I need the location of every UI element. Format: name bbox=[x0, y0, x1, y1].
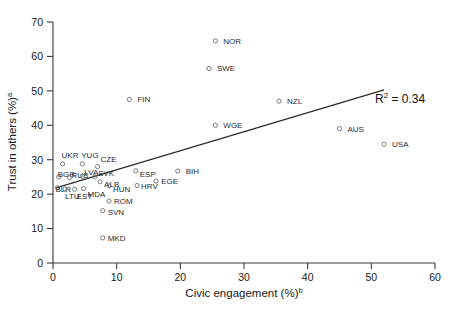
y-tick-label-10: 10 bbox=[31, 222, 43, 234]
point-label-bih: BIH bbox=[186, 167, 200, 176]
x-axis-title-text: Civic engagement (%) bbox=[185, 287, 298, 299]
point-label-aus: AUS bbox=[348, 125, 364, 134]
point-marker-usa bbox=[382, 142, 386, 146]
point-marker-wge bbox=[213, 123, 217, 127]
point-marker-est bbox=[73, 187, 77, 191]
y-tick-label-50: 50 bbox=[31, 85, 43, 97]
point-label-fin: FIN bbox=[137, 95, 150, 104]
point-marker-swe bbox=[207, 66, 211, 70]
point-marker-fin bbox=[127, 97, 131, 101]
point-marker-nor bbox=[213, 39, 217, 43]
data-point-svn: SVN bbox=[101, 208, 125, 217]
r-squared-annotation: R2 = 0.34 bbox=[375, 91, 425, 106]
scatter-chart: 010203040506070 0102030405060 Trust in o… bbox=[0, 0, 455, 309]
x-tick-label-30: 30 bbox=[238, 271, 250, 283]
y-tick-label-70: 70 bbox=[31, 16, 43, 28]
data-point-esp: ESP bbox=[134, 169, 156, 179]
data-point-swe: SWE bbox=[207, 64, 235, 73]
point-label-swe: SWE bbox=[217, 64, 235, 73]
data-point-mkd: MKD bbox=[101, 234, 126, 243]
x-tick-label-10: 10 bbox=[111, 271, 123, 283]
point-marker-aus bbox=[337, 127, 341, 131]
x-tick-label-20: 20 bbox=[174, 271, 186, 283]
point-marker-mda bbox=[81, 187, 85, 191]
svg-text:R2 = 0.34: R2 = 0.34 bbox=[375, 91, 425, 106]
x-tick-label-50: 50 bbox=[365, 271, 377, 283]
y-tick-label-60: 60 bbox=[31, 50, 43, 62]
svg-text:Civic engagement (%)b: Civic engagement (%)b bbox=[185, 286, 302, 299]
point-label-mda: MDA bbox=[88, 190, 106, 199]
point-label-usa: USA bbox=[392, 140, 409, 149]
point-marker-bih bbox=[176, 169, 180, 173]
x-tick-label-0: 0 bbox=[50, 271, 56, 283]
data-point-bih: BIH bbox=[176, 167, 200, 176]
point-label-ukr: UKR bbox=[62, 151, 79, 160]
y-axis-ticks: 010203040506070 bbox=[31, 16, 53, 269]
point-label-yug: YUG bbox=[81, 151, 98, 160]
data-point-wge: WGE bbox=[213, 121, 242, 130]
svg-text:Trust in others (%)a: Trust in others (%)a bbox=[5, 92, 18, 191]
x-axis-ticks: 0102030405060 bbox=[50, 263, 441, 283]
axes bbox=[53, 22, 435, 263]
point-label-esp: ESP bbox=[140, 170, 156, 179]
r-squared-value: = 0.34 bbox=[388, 92, 425, 106]
point-marker-mkd bbox=[101, 236, 105, 240]
y-tick-label-20: 20 bbox=[31, 188, 43, 200]
data-point-fin: FIN bbox=[127, 95, 150, 104]
point-label-svk: SVK bbox=[98, 169, 115, 178]
y-axis-title: Trust in others (%)a bbox=[5, 92, 18, 191]
data-point-nzl: NZL bbox=[277, 97, 303, 106]
y-tick-label-0: 0 bbox=[37, 257, 43, 269]
point-label-svn: SVN bbox=[108, 208, 125, 217]
point-marker-ukr bbox=[60, 162, 64, 166]
x-axis-title: Civic engagement (%)b bbox=[185, 286, 302, 299]
point-marker-yug bbox=[80, 162, 84, 166]
point-label-ege: EGE bbox=[161, 177, 178, 186]
x-tick-label-40: 40 bbox=[302, 271, 314, 283]
point-label-hun: HUN bbox=[113, 185, 131, 194]
point-label-cze: CZE bbox=[101, 155, 117, 164]
point-label-nor: NOR bbox=[223, 37, 241, 46]
y-tick-label-30: 30 bbox=[31, 154, 43, 166]
data-point-ukr: UKR bbox=[60, 151, 78, 166]
point-marker-alb bbox=[98, 180, 102, 184]
data-point-usa: USA bbox=[382, 140, 409, 149]
chart-canvas: 010203040506070 0102030405060 Trust in o… bbox=[0, 0, 455, 309]
point-marker-hrv bbox=[135, 183, 139, 187]
point-marker-esp bbox=[134, 169, 138, 173]
point-label-mkd: MKD bbox=[108, 234, 126, 243]
point-label-nzl: NZL bbox=[287, 97, 303, 106]
data-points: NORSWEFINNZLWGEAUSUSAUKRYUGCZEESPBIHBGRR… bbox=[55, 37, 409, 243]
point-marker-rom bbox=[107, 199, 111, 203]
point-label-rom: ROM bbox=[114, 197, 133, 206]
y-axis-title-text: Trust in others (%) bbox=[6, 97, 18, 191]
y-axis-title-superscript: a bbox=[5, 92, 14, 97]
r-squared-symbol: R bbox=[375, 92, 384, 106]
data-point-rom: ROM bbox=[107, 197, 133, 206]
data-point-nor: NOR bbox=[213, 37, 241, 46]
y-tick-label-40: 40 bbox=[31, 119, 43, 131]
x-tick-label-60: 60 bbox=[429, 271, 441, 283]
point-label-wge: WGE bbox=[223, 121, 242, 130]
point-marker-nzl bbox=[277, 99, 281, 103]
data-point-aus: AUS bbox=[337, 125, 364, 134]
data-point-yug: YUG bbox=[80, 151, 98, 166]
x-axis-title-superscript: b bbox=[298, 286, 302, 295]
point-marker-svn bbox=[101, 209, 105, 213]
